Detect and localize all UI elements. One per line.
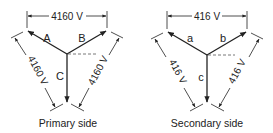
phase-label-b: b [220,32,226,44]
dim-left-line-bottom [45,88,55,107]
line-voltage-left: 4160 V [26,54,51,87]
phase-label-a: a [187,32,194,44]
primary-side-diagram: A B C 4160 V 4160 V 4160 V Primary side [11,11,123,129]
dim-right-line-bottom [219,88,230,107]
phase-label-c: c [198,71,204,83]
dim-right-line-bottom [79,88,89,107]
dim-left-line-bottom [184,88,195,107]
dim-left-ext-bottom [50,104,63,111]
line-voltage-right: 416 V [226,57,248,86]
phase-label-a: A [43,32,51,44]
dim-right-ext-top [111,32,123,38]
dim-right-line-top [109,38,119,55]
dim-left-ext-top [11,32,23,38]
dim-right-line-top [249,39,259,57]
line-voltage-left: 416 V [167,57,189,86]
dim-left-line-top [155,39,166,57]
line-voltage-top: 416 V [194,11,220,22]
phasor-b-arrow [67,31,106,54]
line-voltage-right: 4160 V [86,53,111,86]
line-voltage-top: 4160 V [51,11,83,22]
dim-right-ext-bottom [211,104,224,111]
dim-left-ext-top [151,33,163,39]
secondary-side-caption: Secondary side [171,117,244,129]
wye-diagram-canvas: A B C 4160 V 4160 V 4160 V Primary side … [0,0,273,133]
secondary-side-diagram: a b c 416 V 416 V 416 V Secondary side [151,11,263,129]
dim-right-ext-bottom [71,104,84,111]
phasor-b-arrow [207,32,246,55]
phase-label-b: B [78,32,85,44]
primary-side-caption: Primary side [39,117,98,129]
dim-left-ext-bottom [190,104,203,111]
dim-left-line-top [15,38,26,55]
phase-label-c: C [56,70,64,82]
dim-right-ext-top [251,33,263,39]
